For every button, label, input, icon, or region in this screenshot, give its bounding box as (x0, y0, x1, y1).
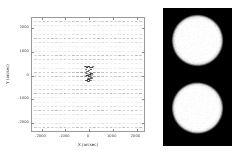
x-tick-mark (42, 17, 43, 20)
y-tick-label: 0 (27, 73, 29, 77)
x-tick-mark (113, 17, 114, 20)
y-tick-label: 1000 (19, 49, 29, 53)
y-tick-mark (31, 123, 34, 124)
x-tick-mark (42, 129, 43, 132)
x-tick-label: -1000 (59, 134, 70, 138)
y-tick-mark (142, 52, 145, 53)
x-tick-label: -2000 (35, 134, 46, 138)
vector-field-panel: -2000-1000010002000 200010000-1000-2000 … (0, 0, 157, 154)
x-tick-mark (65, 17, 66, 20)
y-tick-label: -1000 (18, 96, 29, 100)
y-tick-mark (31, 28, 34, 29)
y-tick-mark (142, 28, 145, 29)
y-tick-mark (142, 99, 145, 100)
y-tick-label: -2000 (18, 120, 29, 124)
x-tick-mark (89, 17, 90, 20)
y-tick-label: 2000 (19, 25, 29, 29)
figure-root: -2000-1000010002000 200010000-1000-2000 … (0, 0, 239, 154)
x-tick-label: 0 (87, 134, 89, 138)
y-tick-mark (142, 76, 145, 77)
quiver-scatter-canvas (32, 18, 144, 131)
x-tick-mark (137, 17, 138, 20)
y-tick-mark (31, 76, 34, 77)
solar-disk-image-canvas (163, 8, 232, 146)
y-tick-mark (142, 123, 145, 124)
x-tick-mark (137, 129, 138, 132)
y-axis-label: Y (arcsec) (5, 64, 10, 84)
intensity-image-panel (163, 8, 232, 146)
y-tick-mark (31, 52, 34, 53)
x-tick-mark (89, 129, 90, 132)
x-tick-label: 1000 (107, 134, 117, 138)
y-tick-mark (31, 99, 34, 100)
x-axis-label: X (arcsec) (78, 142, 98, 147)
x-tick-mark (65, 129, 66, 132)
plot-axes-frame (31, 17, 145, 132)
x-tick-mark (113, 129, 114, 132)
x-tick-label: 2000 (131, 134, 141, 138)
